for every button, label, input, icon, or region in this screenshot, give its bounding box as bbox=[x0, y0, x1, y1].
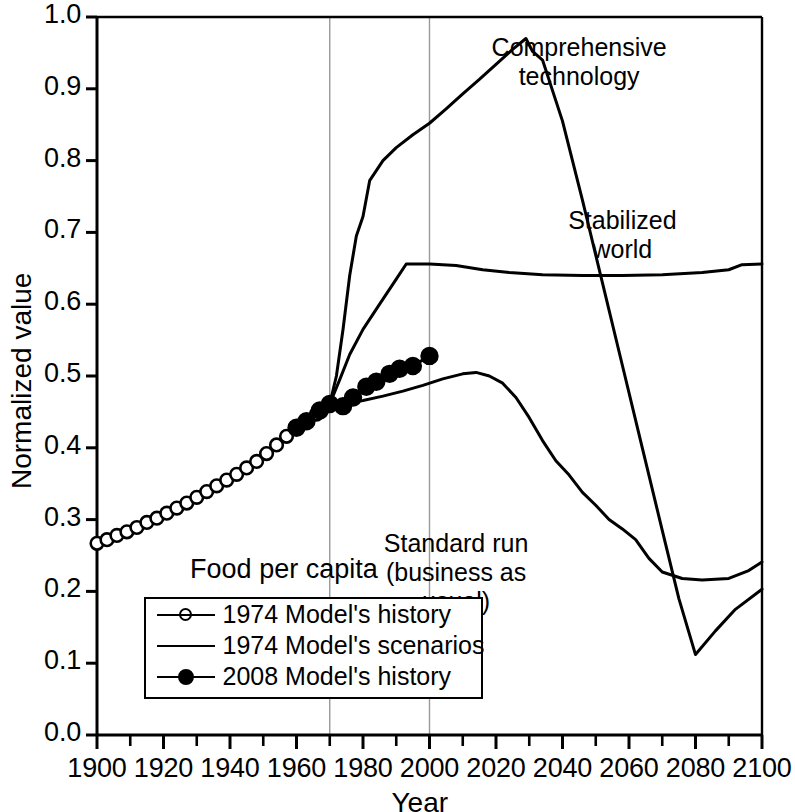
x-tick-label: 2100 bbox=[729, 753, 795, 784]
y-tick-label: 0.5 bbox=[44, 358, 81, 389]
data-markers bbox=[91, 348, 438, 550]
y-tick-label: 1.0 bbox=[44, 0, 81, 30]
y-tick-label: 0.8 bbox=[44, 143, 81, 174]
y-tick-label: 0.4 bbox=[44, 430, 81, 461]
filled-circle-marker-icon bbox=[155, 665, 217, 689]
y-tick-label: 0.3 bbox=[44, 502, 81, 533]
y-axis-title: Normalized value bbox=[6, 273, 38, 489]
x-tick-label: 1940 bbox=[197, 753, 263, 784]
legend-label: 1974 Model's scenarios bbox=[217, 631, 485, 660]
x-tick-label: 2000 bbox=[397, 753, 463, 784]
legend-title: Food per capita bbox=[190, 554, 378, 585]
annotation-stabilized-world: Stabilized world bbox=[527, 206, 717, 264]
annotation-comprehensive-technology: Comprehensive technology bbox=[464, 33, 694, 91]
x-tick-label: 1980 bbox=[330, 753, 396, 784]
open-circle-marker-icon bbox=[155, 603, 217, 627]
y-tick-label: 0.2 bbox=[44, 573, 81, 604]
legend-item-1974-scenarios: 1974 Model's scenarios bbox=[146, 630, 481, 661]
legend-label: 1974 Model's history bbox=[217, 600, 452, 629]
x-tick-label: 2060 bbox=[596, 753, 662, 784]
legend-item-1974-history: 1974 Model's history bbox=[146, 599, 481, 630]
x-tick-label: 2080 bbox=[663, 753, 729, 784]
legend-label: 2008 Model's history bbox=[217, 662, 452, 691]
legend-item-2008-history: 2008 Model's history bbox=[146, 661, 481, 692]
x-tick-label: 2040 bbox=[530, 753, 596, 784]
y-tick-label: 0.0 bbox=[44, 717, 81, 748]
x-tick-label: 1920 bbox=[131, 753, 197, 784]
line-sample-icon bbox=[155, 634, 217, 658]
x-tick-label: 1960 bbox=[264, 753, 330, 784]
y-tick-label: 0.6 bbox=[44, 286, 81, 317]
x-tick-label: 1900 bbox=[64, 753, 130, 784]
legend-box: 1974 Model's history 1974 Model's scenar… bbox=[144, 597, 483, 699]
y-tick-label: 0.1 bbox=[44, 645, 81, 676]
x-tick-label: 2020 bbox=[463, 753, 529, 784]
y-tick-label: 0.7 bbox=[44, 214, 81, 245]
y-tick-label: 0.9 bbox=[44, 71, 81, 102]
x-axis-title: Year bbox=[392, 787, 449, 812]
